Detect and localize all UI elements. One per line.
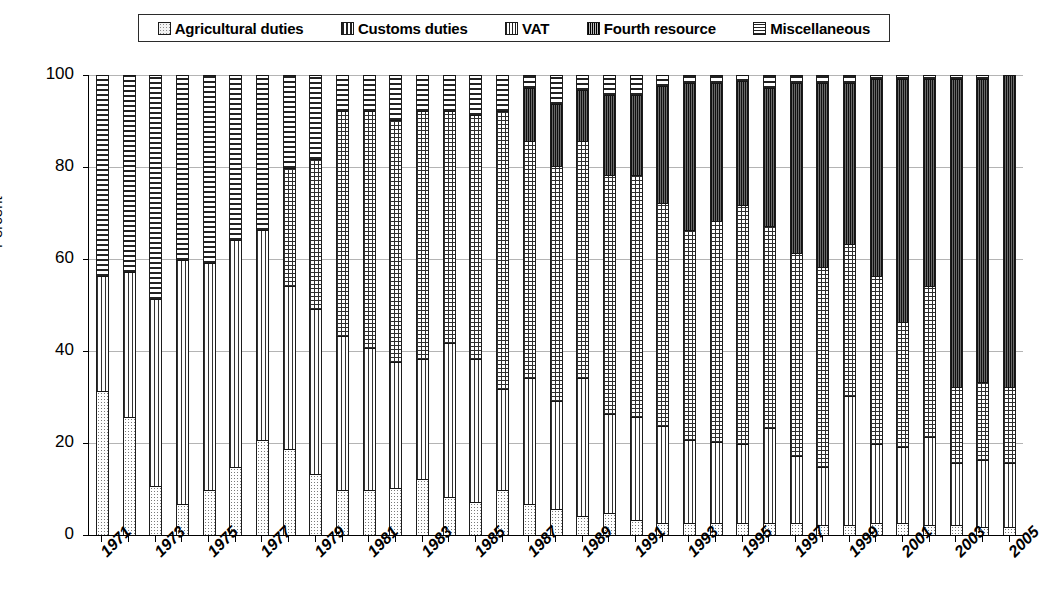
bar-segment-agricultural-duties [577,517,588,535]
bar-1974 [176,75,189,535]
bar-segment-vat [737,206,748,445]
y-axis-tick [83,259,89,260]
legend-item-customs-duties: Customs duties [341,21,468,36]
bar-segment-agricultural-duties [124,418,135,535]
bar-segment-customs-duties [390,363,401,490]
bar-segment-customs-duties [897,448,908,524]
bar-segment-miscellaneous [444,75,455,112]
bar-segment-miscellaneous [124,75,135,273]
x-axis-tick [635,536,636,542]
bar-segment-customs-duties [97,277,108,392]
bar-segment-miscellaneous [417,75,428,112]
bar-segment-agricultural-duties [897,524,908,536]
y-axis-tick-label: 20 [0,432,74,452]
bar-segment-vat [791,254,802,456]
y-axis-tick [83,351,89,352]
x-axis-tick [422,536,423,542]
bar-1986 [496,75,509,535]
bar-segment-agricultural-duties [631,521,642,535]
bar-segment-customs-duties [551,402,562,510]
bar-2005 [1003,75,1016,535]
bar-segment-customs-duties [230,241,241,469]
bar-segment-agricultural-duties [417,480,428,535]
x-axis-tick [475,536,476,542]
bar-segment-customs-duties [924,438,935,525]
chart-legend: Agricultural duties Customs duties VAT F… [138,14,890,42]
bar-segment-customs-duties [284,287,295,450]
bar-segment-agricultural-duties [257,441,268,535]
y-axis-tick-label: 80 [0,156,74,176]
bar-segment-customs-duties [791,457,802,524]
bar-segment-vat [470,116,481,360]
bar-segment-vat [924,287,935,439]
bar-segment-customs-duties [631,418,642,522]
bar-1985 [469,75,482,535]
bar-segment-customs-duties [444,344,455,498]
bar-segment-agricultural-duties [364,491,375,535]
bar-segment-vat [390,121,401,363]
bar-segment-customs-duties [497,390,508,491]
bar-1995 [736,75,749,535]
bar-1988 [550,75,563,535]
legend-label: Customs duties [358,21,468,36]
bar-segment-agricultural-duties [844,526,855,535]
bar-segment-vat [577,142,588,379]
y-axis-tick-label: 40 [0,340,74,360]
bar-segment-miscellaneous [310,75,321,160]
bar-1977 [256,75,269,535]
x-axis-tick [155,536,156,542]
bar-1980 [336,75,349,535]
x-axis-tick [742,536,743,542]
bar-segment-miscellaneous [817,75,828,84]
bar-1990 [603,75,616,535]
bar-segment-miscellaneous [711,75,722,84]
bar-segment-miscellaneous [604,75,615,96]
bar-segment-fourth-resource [711,84,722,222]
bar-segment-agricultural-duties [284,450,295,535]
fourth-resource-swatch-icon [587,22,600,35]
bar-segment-miscellaneous [257,75,268,231]
legend-item-agricultural-duties: Agricultural duties [158,21,304,36]
bar-segment-fourth-resource [817,84,828,268]
bar-segment-vat [551,167,562,402]
bar-segment-agricultural-duties [470,503,481,535]
bar-segment-vat [657,204,668,427]
bar-segment-vat [364,112,375,349]
bar-segment-customs-duties [737,445,748,523]
bar-segment-miscellaneous [204,75,215,264]
bar-segment-miscellaneous [470,75,481,116]
bar-segment-fourth-resource [657,87,668,204]
bar-segment-customs-duties [204,264,215,492]
bar-segment-miscellaneous [791,75,802,84]
bar-1993 [683,75,696,535]
bar-segment-fourth-resource [631,96,642,177]
miscellaneous-swatch-icon [753,22,766,35]
bar-segment-vat [844,245,855,397]
bar-segment-miscellaneous [284,75,295,169]
bar-2000 [870,75,883,535]
bar-segment-miscellaneous [150,75,161,300]
bar-segment-vat [684,231,695,440]
bar-segment-customs-duties [684,441,695,524]
bar-segment-agricultural-duties [524,505,535,535]
bar-1978 [283,75,296,535]
bar-segment-agricultural-duties [791,524,802,536]
x-axis-tick [1009,536,1010,542]
bar-segment-miscellaneous [390,75,401,121]
bar-segment-miscellaneous [844,75,855,84]
legend-label: Miscellaneous [770,21,870,36]
bar-1976 [229,75,242,535]
bar-segment-agricultural-duties [310,475,321,535]
bar-segment-agricultural-duties [684,524,695,536]
bar-segment-fourth-resource [871,80,882,278]
bar-segment-miscellaneous [684,75,695,84]
bar-segment-customs-duties [124,273,135,418]
bar-segment-miscellaneous [337,75,348,112]
bar-segment-customs-duties [951,464,962,526]
bar-1994 [710,75,723,535]
x-axis-tick [315,536,316,542]
bar-1992 [656,75,669,535]
bar-segment-agricultural-duties [737,524,748,536]
bar-1975 [203,75,216,535]
bar-segment-fourth-resource [577,91,588,142]
